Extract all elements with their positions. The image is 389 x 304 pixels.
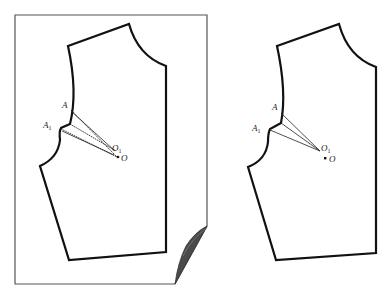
left-panel: A A1 O1 O — [15, 15, 207, 284]
dart-line-A-O1-right — [281, 113, 320, 151]
point-O-left — [117, 156, 120, 159]
dart-lines-right — [270, 113, 320, 151]
label-A1-right-sub: 1 — [258, 128, 261, 134]
label-O-left: O — [121, 153, 128, 163]
label-A-right: A — [271, 102, 278, 112]
diagram-canvas: A A1 O1 O A A1 O1 O — [0, 0, 389, 304]
paper-sheet — [15, 15, 207, 284]
point-O-right — [324, 157, 326, 159]
label-A-left: A — [61, 100, 68, 110]
label-A1-right: A1 — [251, 123, 261, 134]
right-panel: A A1 O1 O — [248, 24, 376, 260]
bodice-outline-right — [248, 24, 376, 260]
label-O1-right: O1 — [321, 143, 331, 154]
label-A1-left-sub: 1 — [49, 125, 52, 131]
label-O-right: O — [329, 154, 336, 164]
